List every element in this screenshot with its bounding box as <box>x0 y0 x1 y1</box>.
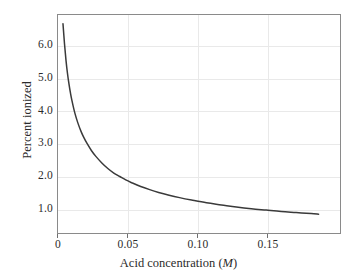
x-axis-title: Acid concentration (M) <box>0 256 357 270</box>
gridline-vertical <box>268 15 269 233</box>
y-tick-label: 1.0 <box>25 203 53 215</box>
x-tick-label: 0 <box>55 239 61 251</box>
gridline-horizontal <box>58 144 340 145</box>
gridline-horizontal <box>58 210 340 211</box>
x-axis-title-tail: ) <box>233 256 237 270</box>
gridline-vertical <box>198 15 199 233</box>
gridline-horizontal <box>58 46 340 47</box>
x-axis-title-unit: M <box>223 256 233 270</box>
y-axis-title: Percent ionized <box>20 50 34 190</box>
x-tick-label: 0.10 <box>188 239 209 251</box>
x-tick-label: 0.05 <box>118 239 139 251</box>
x-axis-title-text: Acid concentration ( <box>120 256 223 270</box>
chart-figure: 6.0 5.0 4.0 3.0 2.0 1.0 0 0.05 0.10 0.15… <box>0 0 357 280</box>
gridline-horizontal <box>58 111 340 112</box>
y-tick-label: 6.0 <box>25 39 53 51</box>
plot-area <box>57 14 341 234</box>
gridline-horizontal <box>58 177 340 178</box>
gridline-horizontal <box>58 79 340 80</box>
gridline-vertical <box>128 15 129 233</box>
x-tick-label: 0.15 <box>258 239 279 251</box>
